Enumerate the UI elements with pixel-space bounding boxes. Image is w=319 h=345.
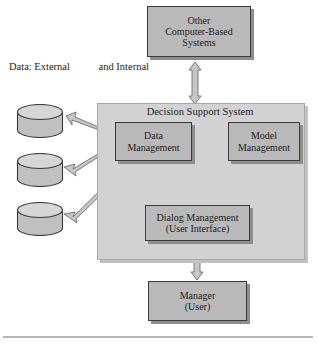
database-cylinder-3[interactable] — [16, 202, 64, 236]
dialog-management-line-2: (User Interface) — [166, 223, 230, 234]
data-sources-label: Data: External and Internal — [9, 60, 149, 74]
node-model-management[interactable]: Model Management — [228, 122, 300, 161]
connector-systems-to-dss — [189, 62, 201, 104]
other-systems-line-2: Computer-Based — [165, 26, 233, 37]
decision-support-system-title: Decision Support System — [97, 106, 303, 117]
other-systems-line-3: Systems — [182, 37, 215, 48]
data-label-line-1: Data: External — [9, 61, 70, 72]
node-dialog-management[interactable]: Dialog Management (User Interface) — [145, 205, 250, 241]
model-management-line-1: Model — [251, 130, 277, 141]
model-management-line-2: Management — [238, 142, 290, 153]
manager-line-1: Manager — [180, 290, 216, 301]
node-other-computer-based-systems[interactable]: Other Computer-Based Systems — [147, 6, 251, 57]
database-cylinder-2[interactable] — [16, 153, 64, 187]
database-cylinder-1[interactable] — [16, 104, 64, 138]
manager-line-2: (User) — [185, 301, 211, 312]
node-manager[interactable]: Manager (User) — [148, 281, 247, 321]
data-management-line-1: Data — [144, 130, 163, 141]
dialog-management-line-1: Dialog Management — [157, 212, 239, 223]
node-data-management[interactable]: Data Management — [115, 122, 192, 161]
data-management-line-2: Management — [127, 142, 179, 153]
data-label-line-2: and Internal — [73, 61, 149, 72]
other-systems-line-1: Other — [188, 15, 211, 26]
dss-architecture-diagram: DSS panel (vertical double arrow) --> Mo… — [0, 0, 319, 345]
footer-divider — [3, 336, 313, 338]
